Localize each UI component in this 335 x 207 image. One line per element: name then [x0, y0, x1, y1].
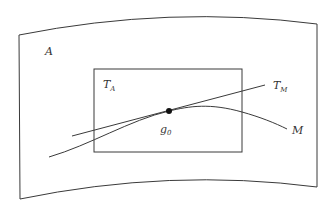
label-g0: g0 [160, 123, 172, 137]
label-m: M [291, 124, 304, 137]
label-tm-sub: M [279, 86, 288, 94]
point-g0 [166, 108, 172, 114]
label-tm: TM [273, 79, 288, 94]
label-ta-sub: A [109, 85, 115, 93]
diagram-canvas: A TA TM M g0 [0, 0, 335, 207]
label-ta: TA [103, 78, 115, 93]
label-g0-sub: 0 [167, 129, 172, 137]
outer-region-a [19, 17, 317, 199]
label-a: A [44, 45, 53, 58]
label-g0-main: g [160, 123, 167, 136]
